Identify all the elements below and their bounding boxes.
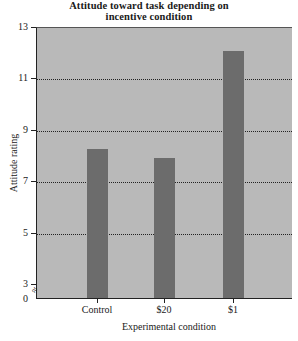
chart-title-line-2: incentive condition xyxy=(0,11,298,22)
bar-usd1 xyxy=(223,51,244,298)
x-tick-label: Control xyxy=(67,305,127,315)
x-tick-label: $20 xyxy=(134,305,194,315)
x-tick xyxy=(233,299,234,303)
y-tick-label: 5 xyxy=(8,228,28,238)
y-tick xyxy=(31,181,36,182)
y-tick xyxy=(31,130,36,131)
gridline xyxy=(37,79,292,80)
plot-area xyxy=(36,27,292,299)
chart-title-line-1: Attitude toward task depending on xyxy=(0,0,298,11)
y-tick xyxy=(31,27,36,28)
gridline xyxy=(37,131,292,132)
x-tick xyxy=(97,299,98,303)
y-tick xyxy=(31,78,36,79)
x-tick xyxy=(164,299,165,303)
y-tick-label: 11 xyxy=(8,73,28,83)
x-axis-label: Experimental condition xyxy=(20,322,298,332)
y-tick-label: 13 xyxy=(8,22,28,32)
y-axis-label: Attitude rating xyxy=(9,103,19,223)
chart-title: Attitude toward task depending on incent… xyxy=(0,0,298,22)
x-tick-label: $1 xyxy=(203,305,263,315)
y-tick-label: 0 xyxy=(8,294,28,304)
bar-control xyxy=(87,149,108,298)
bar-usd20 xyxy=(154,158,175,298)
y-tick xyxy=(31,233,36,234)
y-tick-label: 3 xyxy=(8,279,28,289)
